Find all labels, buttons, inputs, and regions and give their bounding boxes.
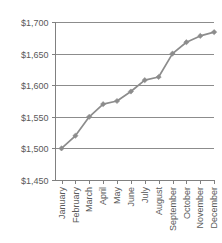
y-axis-tick-labels: $1,450$1,500$1,550$1,600$1,650$1,700 [21, 18, 49, 186]
y-axis-tick-label: $1,550 [21, 113, 49, 123]
chart-canvas: $1,450$1,500$1,550$1,600$1,650$1,700 Jan… [0, 0, 222, 243]
x-axis-tick-label: May [112, 187, 122, 205]
x-axis-tick-label: March [84, 187, 94, 212]
y-axis-tick-label: $1,600 [21, 81, 49, 91]
x-axis-tick-labels: JanuaryFebruaryMarchAprilMayJuneJulyAugu… [57, 187, 220, 232]
x-axis-tick-label: February [71, 187, 81, 224]
x-axis-tick-label: December [209, 187, 219, 229]
x-axis-tick-label: January [57, 187, 67, 220]
y-axis-tick-label: $1,500 [21, 144, 49, 154]
x-axis-tick-label: July [140, 187, 150, 204]
x-axis-tick-label: June [126, 187, 136, 207]
data-point-marker [198, 33, 203, 38]
y-axis-tick-label: $1,450 [21, 176, 49, 186]
x-axis-tick-label: April [98, 187, 108, 205]
series-markers [59, 30, 217, 151]
x-axis-tick-label: October [182, 187, 192, 219]
y-axis-tick-label: $1,700 [21, 18, 49, 28]
y-axis-tickmarks [52, 23, 56, 181]
y-axis-tick-label: $1,650 [21, 50, 49, 60]
line-chart: $1,450$1,500$1,550$1,600$1,650$1,700 Jan… [0, 0, 222, 243]
x-axis-tick-label: August [154, 187, 164, 216]
data-point-marker [212, 30, 217, 35]
x-axis-tick-label: November [195, 187, 205, 229]
series-line [62, 32, 215, 148]
x-axis-tick-label: September [168, 187, 178, 231]
